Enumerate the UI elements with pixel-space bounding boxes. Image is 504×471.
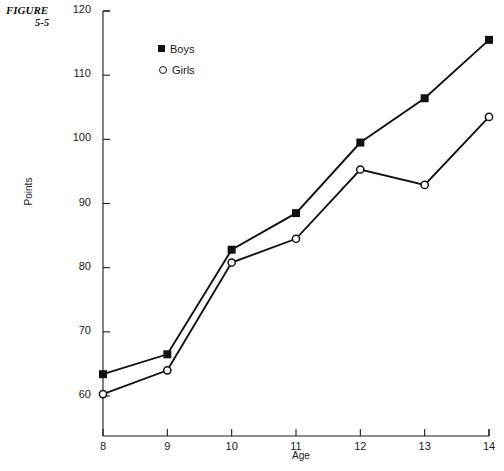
data-point-boys (228, 246, 236, 254)
data-point-boys (99, 370, 107, 378)
y-tick-label: 110 (61, 67, 91, 79)
data-point-girls (421, 181, 428, 188)
data-point-girls (164, 367, 171, 374)
x-tick-label: 9 (152, 440, 182, 452)
series-line-girls (103, 117, 489, 394)
y-tick-label: 90 (61, 196, 91, 208)
x-tick-label: 14 (474, 440, 504, 452)
y-tick-label: 70 (61, 324, 91, 336)
y-tick-label: 120 (61, 3, 91, 15)
x-tick-label: 10 (217, 440, 247, 452)
x-tick-label: 13 (410, 440, 440, 452)
x-axis-ticks (103, 429, 489, 436)
chart-series-layer (99, 36, 493, 398)
y-tick-label: 60 (61, 388, 91, 400)
y-tick-label: 80 (61, 260, 91, 272)
data-point-girls (485, 113, 492, 120)
y-axis-ticks (103, 11, 110, 396)
data-point-boys (292, 209, 300, 217)
series-line-boys (103, 40, 489, 374)
data-point-boys (356, 139, 364, 147)
x-tick-label: 12 (345, 440, 375, 452)
data-point-girls (292, 235, 299, 242)
y-tick-label: 100 (61, 131, 91, 143)
data-point-girls (99, 390, 106, 397)
data-point-girls (357, 166, 364, 173)
x-tick-label: 11 (281, 440, 311, 452)
x-tick-label: 8 (88, 440, 118, 452)
data-point-girls (228, 259, 235, 266)
data-point-boys (485, 36, 493, 44)
data-point-boys (421, 94, 429, 102)
data-point-boys (163, 350, 171, 358)
